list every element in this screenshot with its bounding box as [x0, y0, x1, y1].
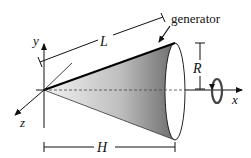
cone-diagram: x y z L generator R: [0, 0, 251, 158]
radius-label: R: [192, 61, 202, 76]
cone: [44, 43, 185, 140]
diagram-canvas: x y z L generator R: [0, 0, 251, 158]
cone-base-ellipse: [165, 43, 185, 140]
height-label: H: [96, 140, 108, 155]
generator-label: generator: [171, 11, 221, 26]
radius-dimension: R: [192, 43, 205, 89]
x-axis-label: x: [231, 92, 238, 107]
z-axis-label: z: [19, 115, 25, 130]
rotation-arrow-icon: [209, 79, 222, 103]
height-dimension: H: [44, 140, 175, 155]
slant-length-label: L: [99, 34, 108, 49]
y-axis-label: y: [31, 33, 39, 48]
y-axis: y: [31, 33, 44, 128]
generator-callout: generator: [159, 11, 221, 42]
